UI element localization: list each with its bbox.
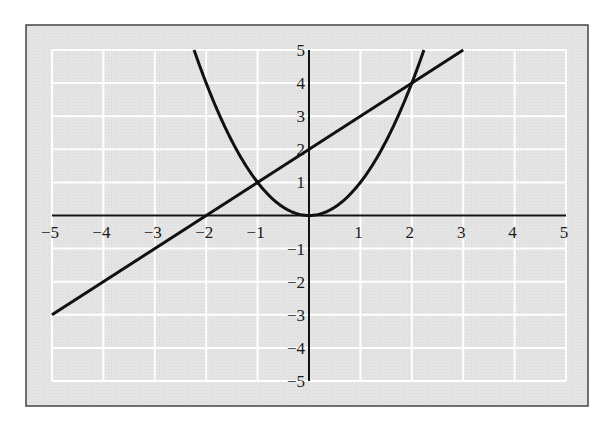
y-tick-label: 5 [297, 41, 306, 60]
x-tick-label: 4 [508, 223, 517, 242]
y-tick-label: 4 [297, 74, 306, 93]
chart: −5−4−3−2−11234554321−1−2−3−4−5 [0, 0, 611, 425]
x-tick-label: 3 [457, 223, 466, 242]
y-tick-label: −2 [287, 273, 305, 292]
y-tick-label: 3 [297, 107, 306, 126]
y-tick-label: −3 [287, 306, 305, 325]
y-tick-label: −5 [287, 372, 305, 391]
y-tick-label: −1 [287, 240, 305, 259]
x-tick-label: −2 [195, 223, 213, 242]
x-tick-label: −4 [92, 223, 111, 242]
x-tick-label: 1 [354, 223, 363, 242]
x-tick-label: −5 [41, 223, 59, 242]
x-tick-label: −3 [144, 223, 162, 242]
x-tick-label: −1 [247, 223, 265, 242]
x-tick-label: 2 [406, 223, 415, 242]
y-tick-label: −4 [287, 339, 306, 358]
x-tick-label: 5 [560, 223, 569, 242]
y-tick-label: 1 [297, 173, 306, 192]
